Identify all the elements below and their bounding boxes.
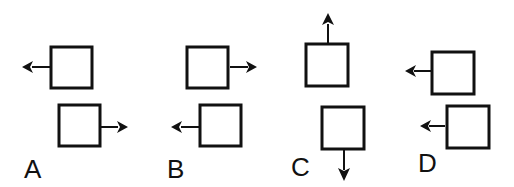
option-a-bottom-square [59, 105, 100, 146]
option-d-label: D [418, 148, 437, 178]
option-d: D [405, 52, 489, 178]
arrow-right-icon [230, 61, 257, 73]
option-b-label: B [167, 154, 184, 184]
arrow-up-icon [322, 13, 334, 43]
arrow-down-icon [338, 150, 350, 181]
option-a-label: A [24, 154, 42, 184]
arrow-left-icon [420, 120, 445, 132]
arrow-left-icon [171, 121, 199, 133]
option-d-bottom-square [447, 106, 489, 148]
option-b-top-square [187, 47, 228, 88]
option-a: A [22, 47, 128, 184]
option-c-top-square [306, 44, 348, 86]
option-c: C [291, 13, 364, 182]
arrow-right-icon [100, 121, 128, 133]
option-b: B [167, 47, 257, 184]
option-c-label: C [291, 152, 310, 182]
option-b-bottom-square [200, 105, 241, 146]
options-diagram: A B C [0, 0, 514, 187]
arrow-left-icon [22, 61, 51, 73]
arrow-left-icon [405, 65, 431, 77]
option-a-top-square [51, 47, 92, 88]
option-c-bottom-square [322, 107, 364, 149]
option-d-top-square [432, 52, 474, 94]
